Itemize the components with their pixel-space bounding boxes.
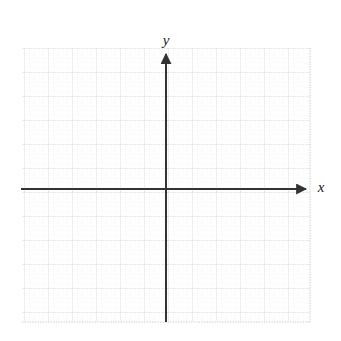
y-axis-label: y xyxy=(161,32,170,48)
coordinate-plane-figure: y x xyxy=(0,0,341,341)
screenshot-root: y x xyxy=(0,0,341,341)
x-axis-label: x xyxy=(317,179,325,195)
coordinate-plane-svg: y x xyxy=(0,0,341,341)
